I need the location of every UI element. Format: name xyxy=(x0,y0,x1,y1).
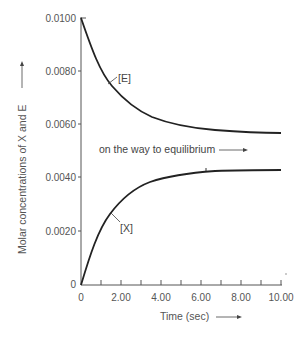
y-tick-label: 0 xyxy=(70,279,76,290)
y-tick-label: 0.0100 xyxy=(45,13,76,24)
e-leader-line xyxy=(108,77,117,84)
annotation-arrowhead xyxy=(243,148,248,152)
x-ticks xyxy=(101,280,281,285)
y-tick-label: 0.0080 xyxy=(45,66,76,77)
x-tick-label: 6.00 xyxy=(191,292,211,303)
x-tick-label: 4.00 xyxy=(151,292,171,303)
equilibrium-annotation: on the way to equilibrium xyxy=(99,143,215,155)
stray-dot xyxy=(285,273,287,275)
y-tick-label: 0.0040 xyxy=(45,172,76,183)
y-ticks xyxy=(78,18,86,231)
x-tick-label: 8.00 xyxy=(231,292,251,303)
e-curve-label: [E] xyxy=(118,72,131,84)
x-axis-title: Time (sec) xyxy=(160,310,209,322)
y-axis-title-group: Molar concentrations of X and E xyxy=(16,61,28,254)
x-axis-title-arrowhead xyxy=(237,315,242,319)
y-tick-label: 0.0060 xyxy=(45,119,76,130)
chart-canvas: 0.0100 0.0080 0.0060 0.0040 0.0020 0 0 2… xyxy=(0,0,306,338)
y-axis-title: Molar concentrations of X and E xyxy=(16,105,28,254)
x-tick-label: 2.00 xyxy=(111,292,131,303)
y-tick-label: 0.0020 xyxy=(45,226,76,237)
x-tick-label: 10.00 xyxy=(268,292,293,303)
x-tick-label: 0 xyxy=(78,292,84,303)
y-axis-title-arrowhead xyxy=(20,61,24,66)
x-curve xyxy=(81,170,281,285)
e-curve xyxy=(81,18,281,133)
x-leader-line xyxy=(111,213,120,222)
x-curve-label: [X] xyxy=(120,222,133,234)
